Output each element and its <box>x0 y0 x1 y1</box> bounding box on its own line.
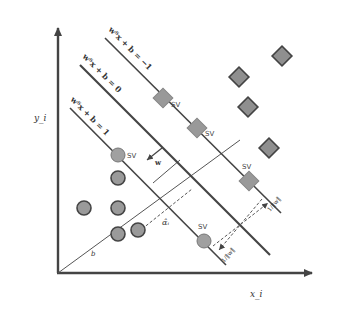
sv-diamond <box>187 118 207 138</box>
data-circle <box>77 201 91 215</box>
alpha-label: α̂ᵢ <box>162 218 169 227</box>
x-axis-label: x_i <box>250 289 263 300</box>
data-diamond <box>229 67 249 87</box>
y-axis-label: y_i <box>33 113 47 124</box>
sv-diamond <box>153 88 173 108</box>
data-circle <box>111 227 125 241</box>
label-hyperplane-pos: wᵀx + b = 1 <box>68 94 112 138</box>
sv-label: SV <box>242 163 251 171</box>
sv-label: SV <box>171 101 180 109</box>
data-diamond <box>272 46 292 66</box>
sv-circle <box>111 148 125 162</box>
sv-label: SV <box>198 223 207 231</box>
svm-diagram: y_i x_i b wᵀx + b = −1 wᵀx + b = 0 wᵀx +… <box>0 0 338 327</box>
label-hyperplane-neg: wᵀx + b = −1 <box>106 24 155 73</box>
w-label: w <box>154 158 162 167</box>
bias-label: b <box>91 250 96 258</box>
data-diamond <box>238 97 258 117</box>
class-diamonds <box>153 46 292 191</box>
sv-circle <box>197 234 211 248</box>
data-diamond <box>259 138 279 158</box>
hyperplane-mid <box>80 65 270 255</box>
data-circle <box>111 171 125 185</box>
data-circle <box>111 201 125 215</box>
sv-label: SV <box>205 130 214 138</box>
margin-upper-label: 1/‖w‖ <box>265 195 282 213</box>
sv-label: SV <box>127 152 136 160</box>
margin-lower-label: 1/‖w‖ <box>219 246 236 264</box>
class-circles <box>77 148 211 248</box>
data-circle <box>131 223 145 237</box>
